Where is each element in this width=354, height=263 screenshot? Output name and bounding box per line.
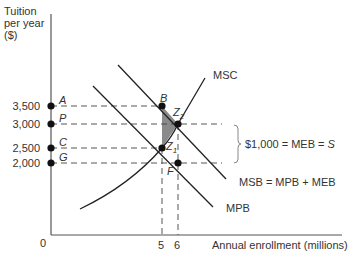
x-tick-6: 6 <box>174 239 180 251</box>
label-z2: Z2 <box>173 106 184 123</box>
y-tick-3000: 3,000 <box>0 118 40 130</box>
origin-label: 0 <box>40 237 46 249</box>
point-f-dot <box>174 159 181 166</box>
msb-label: MSB = MPB + MEB <box>239 176 336 188</box>
label-a: A <box>59 94 66 106</box>
label-c: C <box>59 136 67 148</box>
label-p: P <box>59 112 66 124</box>
y-tick-3500: 3,500 <box>0 100 40 112</box>
mpb-label: MPB <box>226 202 250 214</box>
label-z2-main: Z <box>173 106 180 118</box>
brace-annotation-subsidy: S <box>328 138 335 150</box>
diagram: Tuition per year ($) 3,500 3,000 2,500 2… <box>0 0 354 263</box>
point-p-dot <box>47 120 54 127</box>
label-f: F <box>167 165 174 177</box>
y-tick-2500: 2,500 <box>0 142 40 154</box>
point-a-dot <box>47 102 54 109</box>
y-tick-2000: 2,000 <box>0 157 40 169</box>
x-axis-title: Annual enrollment (millions) <box>212 239 348 251</box>
point-z1-dot <box>158 144 165 151</box>
x-tick-5: 5 <box>158 239 164 251</box>
brace-annotation: $1,000 = MEB = S <box>245 138 335 150</box>
label-z1-sub: 1 <box>173 146 177 155</box>
msc-curve <box>80 78 205 209</box>
y-axis-title: Tuition per year ($) <box>4 5 44 41</box>
label-z1: Z1 <box>166 140 177 157</box>
y-title-line-3: ($) <box>4 29 44 41</box>
msb-line <box>118 65 226 179</box>
label-z1-main: Z <box>166 140 173 152</box>
point-c-dot <box>47 144 54 151</box>
diagram-canvas <box>0 0 354 263</box>
label-b: B <box>160 92 167 104</box>
label-z2-sub: 2 <box>180 112 184 121</box>
point-g-dot <box>47 159 54 166</box>
brace-annotation-text: $1,000 = MEB = <box>245 138 328 150</box>
y-title-line-2: per year <box>4 17 44 29</box>
msc-label: MSC <box>213 69 237 81</box>
label-g: G <box>59 151 68 163</box>
y-title-line-1: Tuition <box>4 5 44 17</box>
brace <box>234 125 241 163</box>
